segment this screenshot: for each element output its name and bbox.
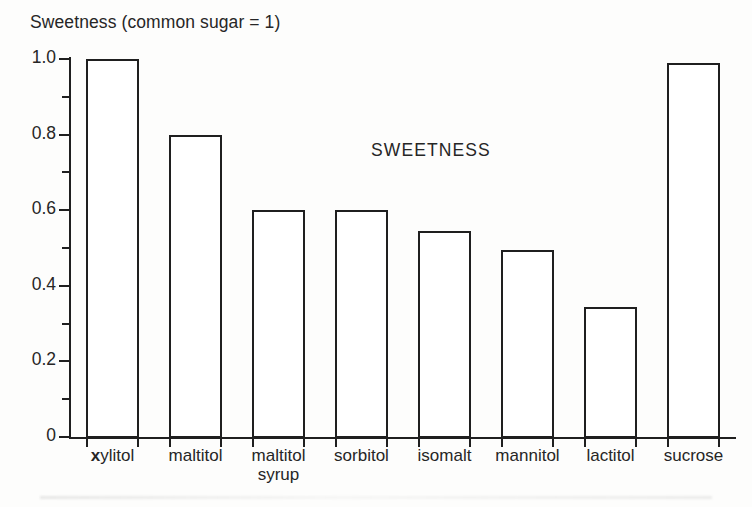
chart-axis-title: Sweetness (common sugar = 1) [30, 12, 280, 33]
y-axis-label-group: 1.00.80.60.40.20 [0, 0, 56, 507]
y-axis-tick-label: 0.4 [32, 274, 56, 295]
x-axis-tick-label: lactitol [569, 446, 652, 465]
x-axis-tick-label: xylitol [71, 446, 154, 465]
bar [667, 63, 721, 438]
bar [584, 307, 638, 438]
x-axis-tick-label: maltitolsyrup [237, 446, 320, 484]
x-axis-label-lead: x [91, 446, 100, 465]
bar [252, 210, 306, 438]
bar [501, 250, 555, 438]
y-axis-tick-minor [62, 398, 70, 400]
y-axis-tick-major [59, 134, 70, 136]
y-axis-tick-label: 0.2 [32, 349, 56, 370]
y-axis-tick-minor [62, 96, 70, 98]
y-axis-tick-label: 0.6 [32, 198, 56, 219]
y-axis-tick-major [59, 436, 70, 438]
x-axis-tick-label: isomalt [403, 446, 486, 465]
x-axis-label-line2: syrup [237, 465, 320, 484]
bar [418, 231, 472, 438]
y-axis-tick-major [59, 58, 70, 60]
bar [86, 59, 140, 438]
bar [335, 210, 389, 438]
y-axis-tick-major [59, 360, 70, 362]
y-axis-tick-minor [62, 171, 70, 173]
y-axis-tick-label: 1.0 [32, 47, 56, 68]
y-axis-tick-major [59, 285, 70, 287]
scan-artifact [40, 496, 712, 499]
x-axis-tick-label: mannitol [486, 446, 569, 465]
y-axis-tick-label: 0 [46, 425, 56, 446]
x-axis-tick-label: maltitol [154, 446, 237, 465]
x-axis-tick-label: sucrose [652, 446, 735, 465]
x-axis-tick-label: sorbitol [320, 446, 403, 465]
y-axis-tick-minor [62, 323, 70, 325]
y-axis-tick-major [59, 209, 70, 211]
sweetness-bar-chart-figure: Sweetness (common sugar = 1) SWEETNESS 1… [0, 0, 752, 507]
chart-annotation-sweetness: SWEETNESS [371, 140, 491, 161]
bar [169, 135, 223, 438]
y-axis-tick-label: 0.8 [32, 123, 56, 144]
y-axis-tick-minor [62, 247, 70, 249]
